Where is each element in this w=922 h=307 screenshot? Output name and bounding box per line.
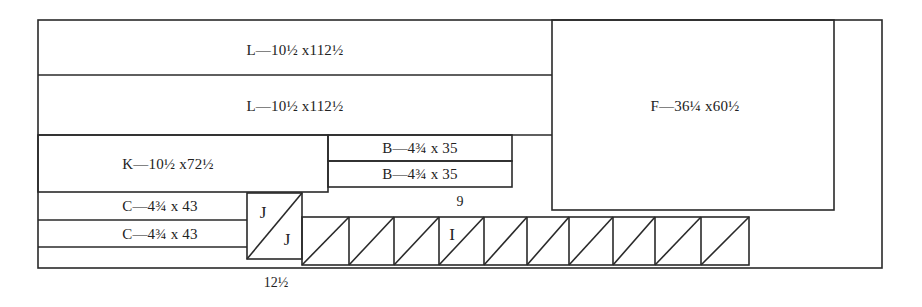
label-piece-b-1: B—4¾ x 35 <box>382 140 458 157</box>
cutting-diagram <box>0 0 922 307</box>
label-j-upper: J <box>260 203 267 223</box>
label-piece-k: K—10½ x72½ <box>122 156 214 173</box>
label-piece-c-2: C—4¾ x 43 <box>122 226 198 243</box>
label-piece-l-1: L—10½ x112½ <box>246 42 343 59</box>
label-piece-b-2: B—4¾ x 35 <box>382 166 458 183</box>
piece-f <box>552 20 834 210</box>
label-i: I <box>449 225 455 245</box>
label-piece-f: F—36¼ x60½ <box>650 98 739 115</box>
dimension-i-count: 9 <box>457 194 464 210</box>
label-piece-c-1: C—4¾ x 43 <box>122 198 198 215</box>
i-triangles <box>302 217 749 265</box>
piece-i-strip <box>302 217 749 265</box>
label-piece-l-2: L—10½ x112½ <box>246 98 343 115</box>
dimension-j-width: 12½ <box>264 275 289 291</box>
label-j-lower: J <box>284 230 291 250</box>
